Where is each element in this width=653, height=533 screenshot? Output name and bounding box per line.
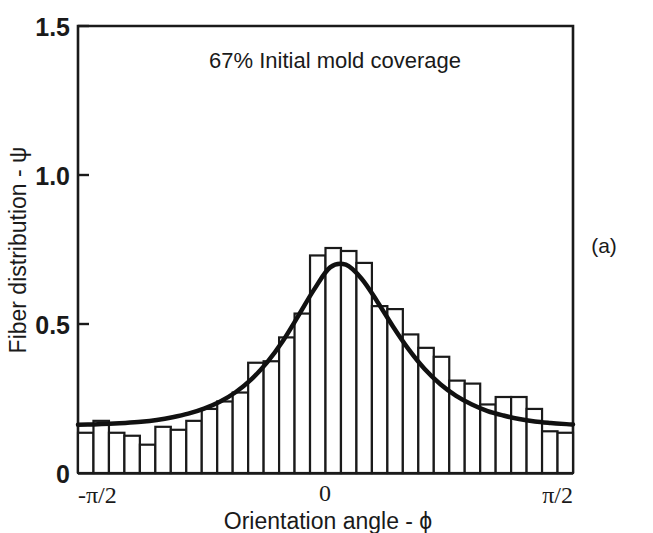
x-tick-label-neg-pi-over-2: -π/2 — [78, 482, 117, 508]
histogram-bar — [372, 306, 387, 473]
histogram-bar — [465, 384, 480, 473]
histogram-bar — [233, 393, 248, 473]
histogram-bar — [542, 431, 557, 473]
histogram-bar — [496, 397, 511, 473]
histogram-bar — [279, 337, 294, 473]
histogram-bar — [295, 314, 310, 473]
histogram-bar — [356, 263, 371, 473]
y-tick-label-0_5: 0.5 — [35, 311, 70, 339]
histogram-bar — [186, 421, 201, 473]
histogram-bar — [558, 433, 573, 473]
x-tick-labels: -π/2 0 π/2 — [78, 480, 573, 508]
y-tick-marks — [78, 26, 89, 324]
histogram-bar — [434, 357, 449, 473]
histogram-bar — [171, 430, 186, 473]
histogram-bar — [217, 401, 232, 473]
y-tick-labels: 1.5 1.0 0.5 0 — [35, 13, 70, 488]
y-tick-label-1_5: 1.5 — [35, 13, 70, 41]
histogram-bar — [341, 251, 356, 473]
histogram-bar — [264, 361, 279, 473]
y-tick-label-0: 0 — [56, 460, 70, 488]
y-axis-title: Fiber distribution - ψ — [5, 147, 31, 354]
fiber-orientation-chart: 1.5 1.0 0.5 0 -π/2 0 π/2 Orientation ang… — [0, 0, 653, 533]
histogram-bar — [511, 397, 526, 473]
histogram-bar — [155, 427, 170, 473]
x-axis-title: Orientation angle - ϕ — [224, 508, 433, 533]
histogram-bar — [78, 433, 93, 473]
panel-label: (a) — [591, 234, 617, 257]
x-tick-label-pi-over-2: π/2 — [542, 482, 573, 508]
histogram-bar — [109, 433, 124, 473]
y-tick-label-1_0: 1.0 — [35, 162, 70, 190]
histogram-bar — [93, 421, 108, 473]
histogram-bar — [140, 445, 155, 473]
histogram-bar — [124, 436, 139, 473]
histogram-bar — [326, 248, 341, 473]
x-tick-label-zero: 0 — [319, 480, 331, 506]
figure-container: 1.5 1.0 0.5 0 -π/2 0 π/2 Orientation ang… — [0, 0, 653, 533]
histogram-bars — [78, 248, 573, 473]
histogram-bar — [202, 409, 217, 473]
plot-annotation-label: 67% Initial mold coverage — [209, 48, 461, 73]
